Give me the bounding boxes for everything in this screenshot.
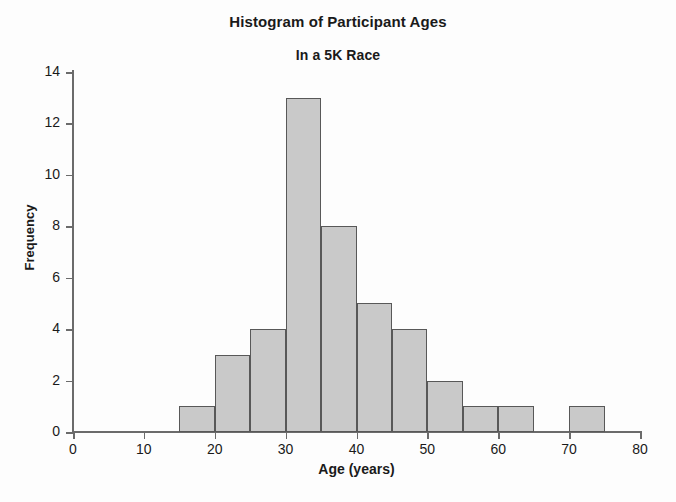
x-axis-label: Age (years) [73, 461, 640, 477]
x-tick-label: 20 [195, 441, 235, 457]
histogram-bar [250, 329, 285, 432]
x-tick-label: 0 [53, 441, 93, 457]
y-tick-mark [66, 175, 73, 177]
x-tick-label: 80 [620, 441, 660, 457]
y-tick-label: 0 [14, 423, 60, 439]
histogram-bar [357, 303, 392, 432]
histogram-bar [569, 406, 604, 432]
y-tick-mark [66, 381, 73, 383]
x-tick-mark [640, 432, 642, 439]
x-tick-label: 10 [124, 441, 164, 457]
y-tick-mark [66, 432, 73, 434]
plot-area [73, 72, 640, 432]
histogram-bar [321, 226, 356, 432]
y-axis-label: Frequency [22, 183, 37, 293]
histogram-bar [179, 406, 214, 432]
histogram-chart: Histogram of Participant Ages In a 5K Ra… [0, 0, 676, 502]
y-tick-label: 2 [14, 372, 60, 388]
chart-subtitle: In a 5K Race [0, 47, 676, 63]
y-tick-mark [66, 329, 73, 331]
histogram-bar [392, 329, 427, 432]
y-tick-label: 4 [14, 320, 60, 336]
chart-title: Histogram of Participant Ages [0, 13, 676, 30]
x-tick-label: 70 [549, 441, 589, 457]
y-tick-mark [66, 123, 73, 125]
histogram-bar [427, 381, 462, 432]
histogram-bar [215, 355, 250, 432]
x-tick-mark [569, 432, 571, 439]
x-tick-mark [498, 432, 500, 439]
x-tick-mark [215, 432, 217, 439]
x-tick-mark [73, 432, 75, 439]
x-tick-mark [427, 432, 429, 439]
histogram-bar [286, 98, 321, 432]
x-tick-mark [286, 432, 288, 439]
y-tick-mark [66, 226, 73, 228]
x-tick-label: 60 [478, 441, 518, 457]
y-tick-label: 10 [14, 166, 60, 182]
x-tick-mark [144, 432, 146, 439]
y-tick-mark [66, 278, 73, 280]
y-tick-mark [66, 72, 73, 74]
histogram-bar [498, 406, 533, 432]
y-tick-label: 14 [14, 63, 60, 79]
x-tick-label: 50 [407, 441, 447, 457]
histogram-bar [463, 406, 498, 432]
x-tick-label: 30 [266, 441, 306, 457]
y-tick-label: 12 [14, 114, 60, 130]
x-tick-mark [357, 432, 359, 439]
x-tick-label: 40 [337, 441, 377, 457]
